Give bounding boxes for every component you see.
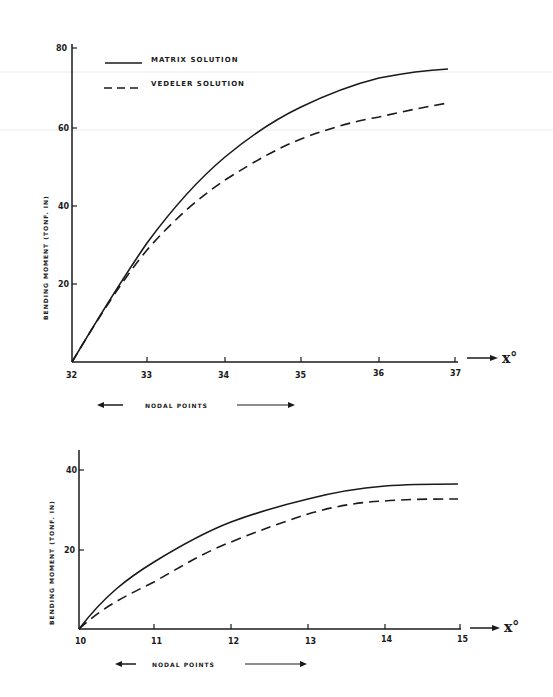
bottom-series-vedeler bbox=[79, 499, 458, 629]
bottom-x-tick-label: 15 bbox=[457, 635, 469, 644]
top-nodal-points-label: NODAL POINTS bbox=[145, 402, 208, 409]
bottom-x-tick-label: 12 bbox=[228, 637, 239, 646]
top-x-ticks: 32 33 34 35 36 37 bbox=[66, 357, 461, 380]
bottom-y-axis-title: BENDING MOMENT (TONF. IN) bbox=[48, 500, 55, 625]
top-nodal-points-annotation: NODAL POINTS bbox=[97, 402, 295, 409]
top-x-tick-label: 37 bbox=[450, 369, 461, 378]
bottom-x-tick-label: 11 bbox=[151, 637, 163, 646]
top-x-variable-arrow: x° bbox=[467, 350, 517, 366]
top-x-tick-label: 34 bbox=[218, 371, 230, 380]
bottom-x-variable-arrow: x° bbox=[470, 619, 519, 635]
top-series-matrix bbox=[72, 69, 448, 362]
bottom-x-tick-label: 14 bbox=[381, 635, 393, 644]
bottom-x-ticks: 10 11 12 13 14 15 bbox=[75, 624, 469, 646]
top-x-variable: x° bbox=[502, 350, 517, 366]
top-y-axis-title: BENDING MOMENT (TONF. IN) bbox=[42, 195, 49, 320]
legend-vedeler-label: VEDELER SOLUTION bbox=[151, 80, 245, 88]
bottom-y-ticks: 20 40 bbox=[64, 466, 84, 555]
top-x-tick-label: 35 bbox=[295, 371, 307, 380]
bottom-x-tick-label: 10 bbox=[75, 637, 87, 646]
bottom-x-variable: x° bbox=[504, 619, 519, 635]
top-x-tick-label: 33 bbox=[141, 371, 152, 380]
bottom-chart: 20 40 10 11 12 13 14 15 x° BENDING MOMEN… bbox=[48, 450, 519, 668]
bottom-y-tick-label: 20 bbox=[64, 546, 76, 555]
top-y-tick-label: 80 bbox=[56, 44, 68, 53]
bottom-y-tick-label: 40 bbox=[66, 466, 78, 475]
bottom-series-matrix bbox=[79, 484, 458, 629]
top-y-tick-label: 20 bbox=[58, 280, 70, 289]
chart-canvas: 20 40 60 80 32 33 34 35 36 37 x° BENDING… bbox=[0, 0, 553, 697]
top-y-tick-label: 40 bbox=[58, 202, 70, 211]
top-y-tick-label: 60 bbox=[58, 124, 70, 133]
top-y-ticks: 20 40 60 80 bbox=[56, 44, 77, 289]
top-x-tick-label: 32 bbox=[66, 371, 77, 380]
legend-matrix-label: MATRIX SOLUTION bbox=[151, 56, 239, 64]
bottom-nodal-points-annotation: NODAL POINTS bbox=[115, 661, 307, 668]
top-x-tick-label: 36 bbox=[373, 369, 385, 378]
bottom-x-tick-label: 13 bbox=[305, 637, 316, 646]
top-chart: 20 40 60 80 32 33 34 35 36 37 x° BENDING… bbox=[42, 44, 517, 409]
top-series-vedeler bbox=[72, 103, 448, 362]
bottom-nodal-points-label: NODAL POINTS bbox=[152, 661, 215, 668]
